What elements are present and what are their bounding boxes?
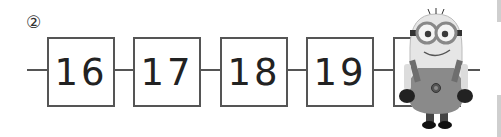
number-box-1: 16 (47, 37, 115, 107)
box-value: 18 (227, 51, 280, 94)
box-value: 16 (54, 51, 107, 94)
edge-bar-top (497, 0, 501, 22)
box-value: 17 (140, 51, 193, 94)
minion-arm-left (404, 64, 411, 90)
box-value: 19 (313, 51, 366, 94)
minion-eye-right (442, 31, 448, 37)
number-box-4: 19 (306, 37, 374, 107)
edge-bar-bottom (497, 95, 501, 137)
problem-number: ② (26, 12, 41, 32)
minion-shoe-right (438, 121, 452, 129)
minion-eye-left (425, 31, 431, 37)
minion-illustration (398, 8, 474, 132)
minion-hair (428, 8, 444, 14)
number-box-3: 18 (220, 37, 288, 107)
minion-shoe-left (422, 121, 436, 129)
number-box-2: 17 (133, 37, 201, 107)
minion-glove-left (399, 89, 415, 103)
minion-arm-right (461, 64, 468, 90)
minion-glove-right (457, 89, 473, 103)
